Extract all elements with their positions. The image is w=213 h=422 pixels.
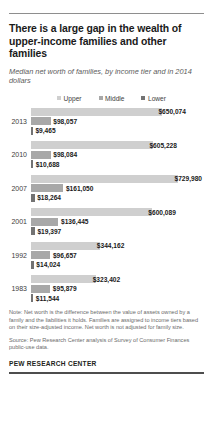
bar-upper[interactable] (31, 108, 162, 116)
bar-row-middle[interactable]: $96,657 (31, 251, 204, 259)
bar-value-label: $19,397 (35, 228, 61, 235)
chart-group-1983: 1983$323,402$95,879$11,544 (9, 275, 204, 302)
page-title: There is a large gap in the wealth of up… (9, 23, 204, 61)
bar-stack: $344,162$96,657$14,024 (31, 242, 204, 269)
bar-value-label: $605,228 (147, 142, 177, 149)
bar-middle[interactable] (31, 117, 51, 125)
legend-item-label: Middle (105, 95, 124, 102)
year-label: 2010 (9, 151, 31, 158)
chart-group-2010: 2010$605,228$98,084$10,688 (9, 141, 204, 168)
legend-swatch-icon (57, 96, 61, 100)
bar-upper[interactable] (31, 242, 100, 250)
bar-value-label: $323,402 (90, 276, 120, 283)
bar-value-label: $600,089 (146, 209, 176, 216)
year-label: 2001 (9, 218, 31, 225)
bar-upper[interactable] (31, 141, 153, 149)
bar-stack: $729,980$161,050$18,264 (31, 175, 204, 202)
bar-row-lower[interactable]: $18,264 (31, 194, 204, 202)
chart-subtitle: Median net worth of families, by income … (9, 67, 204, 86)
bar-row-middle[interactable]: $161,050 (31, 184, 204, 192)
bar-row-upper[interactable]: $323,402 (31, 275, 204, 283)
legend-swatch-icon (141, 96, 145, 100)
bar-chart: 2013$650,074$98,057$9,4652010$605,228$98… (9, 108, 204, 303)
bar-value-label: $96,657 (50, 252, 76, 259)
bar-value-label: $95,879 (50, 285, 76, 292)
bar-row-lower[interactable]: $14,024 (31, 261, 204, 269)
chart-source: Source: Pew Research Center analysis of … (9, 337, 204, 351)
legend-item-upper[interactable]: Upper (57, 95, 81, 102)
bar-middle[interactable] (31, 184, 63, 192)
bar-row-middle[interactable]: $95,879 (31, 285, 204, 293)
bar-row-middle[interactable]: $98,057 (31, 117, 204, 125)
bar-value-label: $9,465 (33, 127, 56, 134)
legend-item-lower[interactable]: Lower (141, 95, 165, 102)
bar-stack: $600,089$136,445$19,397 (31, 208, 204, 235)
bar-middle[interactable] (31, 251, 50, 259)
bar-value-label: $729,980 (172, 175, 202, 182)
bar-middle[interactable] (31, 285, 50, 293)
bar-row-lower[interactable]: $19,397 (31, 227, 204, 235)
legend-item-middle[interactable]: Middle (99, 95, 125, 102)
bar-row-upper[interactable]: $650,074 (31, 108, 204, 116)
footnotes: Note: Net worth is the difference betwee… (9, 309, 204, 373)
bar-stack: $323,402$95,879$11,544 (31, 275, 204, 302)
bar-value-label: $14,024 (34, 261, 60, 268)
bar-row-lower[interactable]: $11,544 (31, 294, 204, 302)
bar-value-label: $11,544 (33, 295, 59, 302)
bar-row-lower[interactable]: $9,465 (31, 127, 204, 135)
bar-upper[interactable] (31, 175, 178, 183)
infographic-card: There is a large gap in the wealth of up… (0, 13, 213, 422)
brand-label: PEW RESEARCH CENTER (9, 360, 204, 367)
chart-group-2007: 2007$729,980$161,050$18,264 (9, 175, 204, 202)
bar-row-upper[interactable]: $729,980 (31, 175, 204, 183)
bar-row-middle[interactable]: $136,445 (31, 218, 204, 226)
bar-value-label: $18,264 (35, 194, 61, 201)
bar-row-upper[interactable]: $605,228 (31, 141, 204, 149)
bar-middle[interactable] (31, 151, 51, 159)
chart-group-2013: 2013$650,074$98,057$9,465 (9, 108, 204, 135)
bottom-divider (9, 372, 204, 373)
chart-note: Note: Net worth is the difference betwee… (9, 309, 204, 331)
chart-group-2001: 2001$600,089$136,445$19,397 (9, 208, 204, 235)
chart-legend: UpperMiddleLower (9, 95, 204, 102)
bar-row-lower[interactable]: $10,688 (31, 160, 204, 168)
bar-value-label: $161,050 (63, 185, 93, 192)
chart-group-1992: 1992$344,162$96,657$14,024 (9, 242, 204, 269)
bar-value-label: $650,074 (156, 108, 186, 115)
bar-middle[interactable] (31, 218, 58, 226)
bar-value-label: $98,057 (51, 118, 77, 125)
bar-row-upper[interactable]: $600,089 (31, 208, 204, 216)
bar-stack: $650,074$98,057$9,465 (31, 108, 204, 135)
legend-item-label: Upper (64, 95, 82, 102)
legend-item-label: Lower (148, 95, 166, 102)
bar-value-label: $136,445 (58, 218, 88, 225)
year-label: 1983 (9, 285, 31, 292)
legend-swatch-icon (99, 96, 103, 100)
bar-row-upper[interactable]: $344,162 (31, 242, 204, 250)
bar-value-label: $98,084 (51, 151, 77, 158)
year-label: 2013 (9, 118, 31, 125)
bar-value-label: $10,688 (33, 161, 59, 168)
bar-upper[interactable] (31, 275, 96, 283)
top-divider (9, 13, 204, 14)
bar-stack: $605,228$98,084$10,688 (31, 141, 204, 168)
bar-row-middle[interactable]: $98,084 (31, 151, 204, 159)
bar-upper[interactable] (31, 208, 152, 216)
year-label: 1992 (9, 252, 31, 259)
bar-value-label: $344,162 (94, 242, 124, 249)
year-label: 2007 (9, 185, 31, 192)
